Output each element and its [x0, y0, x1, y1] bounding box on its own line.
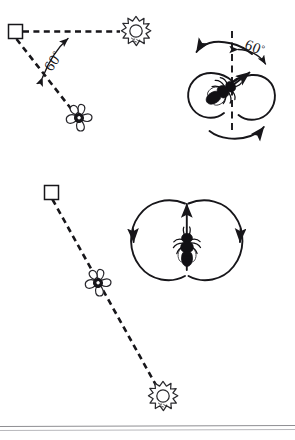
loop-arrow-right [240, 229, 241, 242]
angle-label: 60° [41, 49, 65, 74]
panel-bottom-dance [131, 200, 242, 280]
line-hive-to-sun-through-flower [53, 200, 158, 388]
panel-top-field: 60° [9, 16, 151, 131]
dance-loop-right [234, 75, 275, 120]
dance-loop-right [189, 200, 243, 280]
angle-label: 60° [243, 36, 267, 58]
angle-value: 60 [243, 36, 264, 57]
sun-icon [148, 381, 177, 410]
svg-text:60°: 60° [41, 49, 65, 74]
square-hive-icon [9, 25, 23, 39]
loop-arrow-left [133, 229, 134, 242]
page-edge-rule [0, 426, 295, 431]
flower-icon [66, 105, 92, 131]
panel-bottom-field [45, 186, 178, 411]
svg-text:60°: 60° [243, 36, 267, 58]
sun-icon [121, 16, 150, 45]
panel-top-dance: 60° [188, 31, 275, 139]
flower-icon [85, 270, 111, 296]
waggle-dance-figure: 60° [0, 0, 295, 440]
square-hive-icon [45, 186, 59, 200]
figure-page: 60° [0, 0, 295, 440]
dance-sweep-lower [210, 127, 264, 139]
